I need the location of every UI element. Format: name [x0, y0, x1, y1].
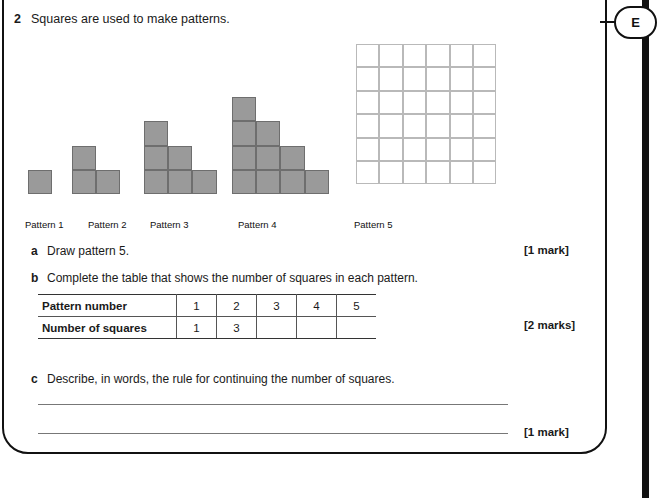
blank-grid-cell[interactable] [450, 67, 473, 90]
part-b-letter: b [31, 271, 38, 285]
blank-grid-cell[interactable] [403, 91, 426, 114]
blank-grid-cell[interactable] [450, 44, 473, 67]
pattern-square [144, 170, 168, 194]
blank-grid-cell[interactable] [426, 138, 449, 161]
pattern-square [72, 170, 96, 194]
blank-grid-cell[interactable] [450, 114, 473, 137]
table-cell-squares-5[interactable] [337, 317, 377, 339]
blank-grid-cell[interactable] [379, 161, 402, 184]
pattern-square [144, 121, 168, 145]
blank-grid-cell[interactable] [356, 67, 379, 90]
grade-tab: E [614, 6, 657, 39]
part-b-mark: [2 marks] [524, 319, 575, 331]
part-c-letter: c [31, 372, 38, 386]
blank-grid-cell[interactable] [426, 161, 449, 184]
part-b-text: Complete the table that shows the number… [47, 271, 418, 285]
pattern-square [305, 170, 329, 194]
pattern-square [144, 146, 168, 170]
blank-grid-cell[interactable] [379, 67, 402, 90]
blank-grid-cell[interactable] [473, 44, 496, 67]
pattern-square [232, 146, 256, 170]
answer-line-1[interactable] [38, 404, 508, 405]
blank-grid-cell[interactable] [379, 138, 402, 161]
table-cell-squares-3[interactable] [257, 317, 297, 339]
pattern-square [72, 146, 96, 170]
part-a-text: Draw pattern 5. [47, 244, 129, 258]
pattern-square [256, 170, 280, 194]
blank-grid-cell[interactable] [356, 91, 379, 114]
blank-grid-cell[interactable] [426, 91, 449, 114]
table-cell-pattern-4: 4 [297, 295, 337, 317]
pattern-square [96, 170, 120, 194]
part-a-letter: a [31, 244, 38, 258]
blank-grid-cell[interactable] [473, 114, 496, 137]
table-cell-pattern-2: 2 [217, 295, 257, 317]
table-header-number-of-squares: Number of squares [38, 317, 177, 339]
table-row-pattern-number: Pattern number 1 2 3 4 5 [38, 295, 376, 317]
pattern-square [232, 170, 256, 194]
blank-grid-cell[interactable] [426, 114, 449, 137]
blank-grid-cell[interactable] [473, 91, 496, 114]
table-row-number-of-squares: Number of squares 1 3 [38, 317, 376, 339]
blank-grid-cell[interactable] [403, 161, 426, 184]
pattern-label-3: Pattern 3 [150, 219, 189, 230]
pattern-label-5: Pattern 5 [354, 219, 393, 230]
answer-line-2[interactable] [38, 433, 508, 434]
blank-grid-cell[interactable] [403, 114, 426, 137]
blank-grid-cell[interactable] [450, 138, 473, 161]
blank-grid-cell[interactable] [356, 161, 379, 184]
blank-grid-cell[interactable] [403, 138, 426, 161]
pattern-diagrams: Pattern 1Pattern 2Pattern 3Pattern 4Patt… [0, 0, 620, 230]
pattern-square [280, 146, 304, 170]
table-header-pattern-number: Pattern number [38, 295, 177, 317]
blank-grid-cell[interactable] [450, 161, 473, 184]
blank-grid-cell[interactable] [426, 67, 449, 90]
blank-grid-cell[interactable] [379, 44, 402, 67]
blank-grid-cell[interactable] [473, 138, 496, 161]
pattern-square [280, 170, 304, 194]
pattern-label-2: Pattern 2 [88, 219, 127, 230]
pattern-square [256, 121, 280, 145]
table-cell-squares-2[interactable]: 3 [217, 317, 257, 339]
pattern-square [232, 97, 256, 121]
part-c-mark: [1 mark] [524, 426, 569, 438]
blank-grid-cell[interactable] [356, 44, 379, 67]
pattern-label-4: Pattern 4 [238, 219, 277, 230]
blank-grid-cell[interactable] [403, 67, 426, 90]
pattern-square [232, 121, 256, 145]
pattern-square [192, 170, 216, 194]
blank-grid-cell[interactable] [379, 91, 402, 114]
blank-grid-cell[interactable] [473, 161, 496, 184]
part-a-mark: [1 mark] [524, 244, 569, 256]
blank-grid-cell[interactable] [426, 44, 449, 67]
pattern-square [256, 146, 280, 170]
page-spine-bar [642, 0, 649, 498]
blank-grid-cell[interactable] [403, 44, 426, 67]
part-c-text: Describe, in words, the rule for continu… [47, 372, 395, 386]
pattern-square [168, 146, 192, 170]
pattern-square [168, 170, 192, 194]
table-cell-pattern-3: 3 [257, 295, 297, 317]
blank-grid-cell[interactable] [356, 138, 379, 161]
pattern-square [28, 170, 52, 194]
blank-grid-cell[interactable] [356, 114, 379, 137]
blank-grid-cell[interactable] [450, 91, 473, 114]
blank-grid-cell[interactable] [473, 67, 496, 90]
table-cell-pattern-1: 1 [177, 295, 217, 317]
squares-table: Pattern number 1 2 3 4 5 Number of squar… [38, 294, 376, 339]
table-cell-pattern-5: 5 [337, 295, 377, 317]
blank-grid-cell[interactable] [379, 114, 402, 137]
table-cell-squares-1[interactable]: 1 [177, 317, 217, 339]
pattern-label-1: Pattern 1 [25, 219, 64, 230]
table-cell-squares-4[interactable] [297, 317, 337, 339]
